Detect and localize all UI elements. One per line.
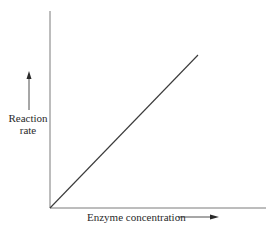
x-axis-label: Enzyme concentration — [87, 211, 186, 223]
diagram: Reaction rate Enzyme concentration — [0, 0, 273, 235]
y-axis-label: Reaction rate — [8, 112, 48, 136]
up-arrow-icon — [27, 71, 32, 110]
rate-line — [50, 55, 198, 208]
y-axis-label-line-2: rate — [8, 124, 48, 136]
y-axis-label-line-1: Reaction — [8, 112, 48, 124]
